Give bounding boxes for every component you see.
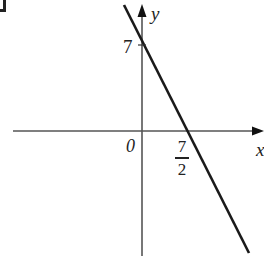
x-intercept-numerator: 7	[178, 137, 187, 156]
x-axis-arrow-icon	[252, 127, 264, 136]
origin-label: 0	[126, 137, 135, 155]
y-intercept-label: 7	[123, 37, 133, 56]
graph-figure: y 7 0 x 7 2	[0, 0, 264, 265]
x-intercept-denominator: 2	[178, 160, 187, 179]
x-axis-label: x	[256, 140, 264, 159]
fraction-bar	[175, 157, 189, 159]
y-axis-label: y	[151, 4, 159, 23]
y-axis-arrow-icon	[138, 4, 147, 17]
x-intercept-label: 7 2	[175, 138, 189, 178]
